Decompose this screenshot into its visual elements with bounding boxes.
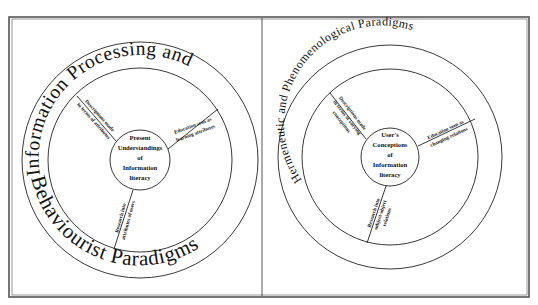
figure-canvas: Information Processing and Behaviourist … [0, 0, 538, 305]
svg-text:literacy: literacy [129, 174, 151, 181]
svg-text:Conceptions: Conceptions [373, 141, 408, 148]
left-outer-title-bottom: Behaviourist Paradigms [26, 173, 202, 271]
center-label: Present Understandings of Information li… [118, 134, 163, 181]
svg-text:Present: Present [129, 134, 151, 141]
svg-text:User's: User's [381, 131, 399, 138]
left-diagram: Information Processing and Behaviourist … [21, 38, 258, 278]
spoke-upper-left: Descriptions made in terms of attributes [76, 96, 118, 141]
spoke-right: Education seen as learning attributes [168, 109, 218, 149]
right-diagram: Hermeneutic and Phenomenological Paradig… [273, 14, 502, 269]
spoke-right: Education seen as changing relations [418, 118, 475, 148]
center-label: User's Conceptions of Information litera… [373, 131, 408, 178]
spoke-bottom: Research into subject-object relations [366, 186, 395, 243]
spoke-bottom: Research into attributes of users [112, 190, 136, 249]
svg-text:literacy: literacy [379, 171, 401, 178]
spoke-upper-left: Descriptions made in terms of varying co… [327, 93, 369, 140]
svg-text:of: of [137, 154, 143, 161]
svg-text:Information: Information [373, 161, 408, 168]
svg-text:of: of [387, 151, 393, 158]
svg-text:Information: Information [123, 164, 158, 171]
svg-text:Understandings: Understandings [118, 144, 163, 151]
